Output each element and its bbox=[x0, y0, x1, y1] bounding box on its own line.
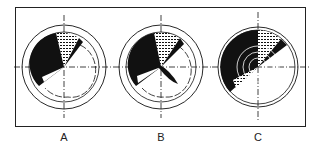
scope-b bbox=[114, 15, 212, 118]
scope-label-a: A bbox=[54, 131, 74, 143]
scope-label-b: B bbox=[151, 131, 171, 143]
scope-label-c: C bbox=[248, 131, 268, 143]
scope-a bbox=[14, 15, 114, 118]
scope-c bbox=[212, 12, 310, 120]
